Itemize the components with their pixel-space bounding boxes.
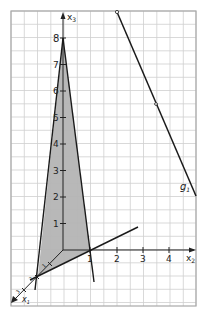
x3-tick-label: 7 — [53, 60, 59, 70]
x2-axis-label: x2 — [186, 253, 195, 264]
x3-tick-label: 6 — [53, 86, 59, 96]
x3-tick-label: 4 — [53, 139, 59, 149]
line-g1-label: g1 — [180, 181, 190, 193]
x3-tick-label: 8 — [53, 33, 59, 44]
x2-tick-label: 1 — [87, 254, 93, 264]
x3-arrow-icon — [61, 12, 66, 19]
x3-tick-label: 2 — [53, 192, 59, 202]
diagram-canvas: x3 x2 x1 1 2 3 4 5 6 7 8 1 2 3 4 1 2 3 g… — [0, 0, 204, 312]
x2-arrow-icon — [189, 248, 196, 253]
x3-tick-label: 3 — [53, 166, 59, 176]
point-icon — [155, 103, 158, 106]
point-icon — [115, 10, 118, 13]
x2-tick-label: 2 — [114, 254, 120, 264]
line-g1 — [115, 10, 196, 196]
x2-tick-label: 4 — [166, 254, 172, 264]
x2-tick-label: 3 — [140, 254, 146, 264]
x3-tick-label: 1 — [53, 219, 59, 229]
x3-axis-label: x3 — [67, 12, 76, 23]
x3-tick-label: 5 — [53, 113, 59, 123]
x1-axis-label: x1 — [21, 295, 30, 305]
